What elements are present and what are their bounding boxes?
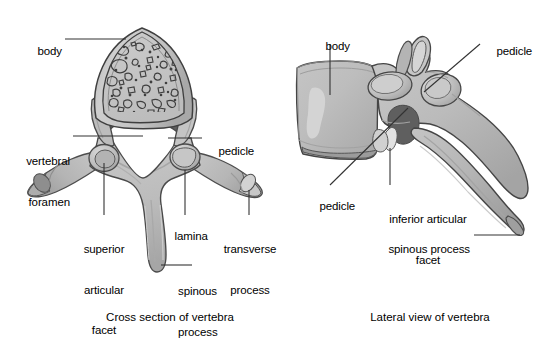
label-pedicle-upper: pedicle [484, 31, 532, 72]
label-lamina: lamina [155, 216, 215, 257]
caption-cross-section: Cross section of vertebra [50, 311, 290, 323]
vertebra-anatomy-figure: body vertebral foramen pedicle superior … [0, 0, 543, 339]
label-pedicle-lower: pedicle [307, 186, 355, 227]
label-vertebral-foramen: vertebral foramen [0, 128, 70, 236]
label-body-lateral: body [313, 26, 350, 67]
label-body-cross: body [10, 31, 62, 72]
vertebral-body [95, 28, 193, 129]
label-spinous-process-cross: spinous process [178, 258, 218, 339]
label-spinous-process-lateral: spinous process [362, 229, 470, 270]
right-superior-articular-facet [170, 144, 200, 170]
label-pedicle-cross: pedicle [206, 131, 254, 172]
caption-lateral-view: Lateral view of vertebra [320, 311, 540, 323]
label-transverse-process: transverse process [213, 216, 287, 324]
lateral-vertebral-body [297, 61, 378, 159]
